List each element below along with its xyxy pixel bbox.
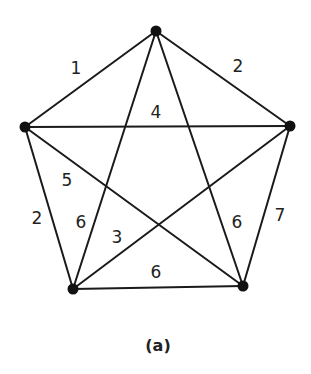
edge-top-right: [156, 31, 290, 126]
edge-right-bottom-left: [73, 126, 290, 289]
edge-left-right: [25, 126, 290, 127]
edge-weight-top-bottom-left: 6: [76, 212, 87, 232]
edge-weight-right-bottom-left: 3: [112, 227, 123, 247]
edge-weight-top-bottom-right: 6: [232, 212, 243, 232]
edge-top-bottom-left: [73, 31, 156, 289]
vertex-top: [151, 26, 162, 37]
weights-group: 1245263676: [32, 56, 286, 282]
graph-diagram: 1245263676 (a): [0, 0, 311, 374]
edge-weight-left-right: 4: [151, 102, 162, 122]
edge-weight-left-bottom-right: 5: [62, 170, 73, 190]
edge-weight-left-bottom-left: 2: [32, 208, 43, 228]
edge-weight-top-right: 2: [233, 56, 244, 76]
edges-group: [25, 31, 290, 289]
edge-weight-right-bottom-right: 7: [275, 205, 286, 225]
vertex-right: [285, 121, 296, 132]
edge-left-bottom-right: [25, 127, 243, 286]
edge-bottom-left-bottom-right: [73, 286, 243, 289]
vertices-group: [20, 26, 296, 295]
edge-top-bottom-right: [156, 31, 243, 286]
edge-weight-top-left: 1: [71, 58, 82, 78]
figure-caption: (a): [145, 336, 170, 355]
vertex-bottom-right: [238, 281, 249, 292]
vertex-left: [20, 122, 31, 133]
edge-weight-bottom-left-bottom-right: 6: [151, 262, 162, 282]
edge-top-left: [25, 31, 156, 127]
vertex-bottom-left: [68, 284, 79, 295]
